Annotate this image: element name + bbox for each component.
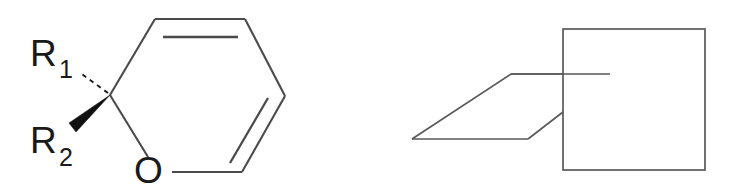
plane-intersection-lower-edge <box>528 112 563 139</box>
chemical-structure-figure: R 1 R 2 O <box>0 0 734 188</box>
atom-label-oxygen: O <box>134 150 163 188</box>
substituent-subscript-r1: 1 <box>59 55 73 83</box>
figure-canvas: R 1 R 2 O <box>0 0 734 188</box>
substituent-subscript-r2: 2 <box>59 143 73 171</box>
substituent-label-r2: R <box>30 120 57 161</box>
geometry-plane-square-diagram <box>412 29 705 170</box>
solid-wedge-bond-r2 <box>69 95 110 132</box>
double-bond-inner-c5-c6 <box>230 98 268 163</box>
bond-c4-c5 <box>245 19 285 96</box>
square-outline <box>563 29 705 170</box>
hashed-wedge-bond-r1 <box>79 72 108 93</box>
pyran-ring-structure: R 1 R 2 O <box>30 19 285 188</box>
bond-o1-c2 <box>110 95 148 157</box>
substituent-label-r1: R <box>30 33 57 74</box>
parallelogram-outline <box>412 74 610 139</box>
bond-c2-c3 <box>110 19 155 95</box>
